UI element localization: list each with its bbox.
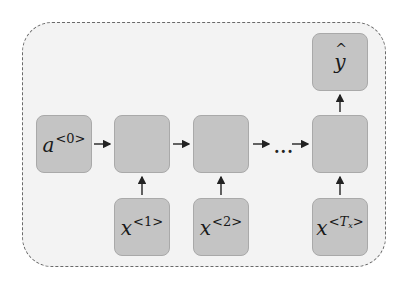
output-yhat-label: ^y: [334, 50, 345, 74]
input-x2-box: x<2>: [193, 198, 249, 256]
input-x2-label: x<2>: [200, 214, 242, 240]
input-xT-box: x<Tx>: [312, 198, 368, 256]
rnn-cell-1: [114, 115, 170, 173]
input-xT-label: x<Tx>: [316, 214, 363, 240]
output-yhat-box: ^y: [312, 33, 368, 91]
ellipsis: ...: [274, 138, 294, 157]
rnn-cell-T: [312, 115, 368, 173]
rnn-cell-2: [193, 115, 249, 173]
input-x1-box: x<1>: [114, 198, 170, 256]
initial-activation-label: a<0>: [43, 131, 86, 157]
initial-activation-box: a<0>: [36, 115, 92, 173]
input-x1-label: x<1>: [121, 214, 163, 240]
